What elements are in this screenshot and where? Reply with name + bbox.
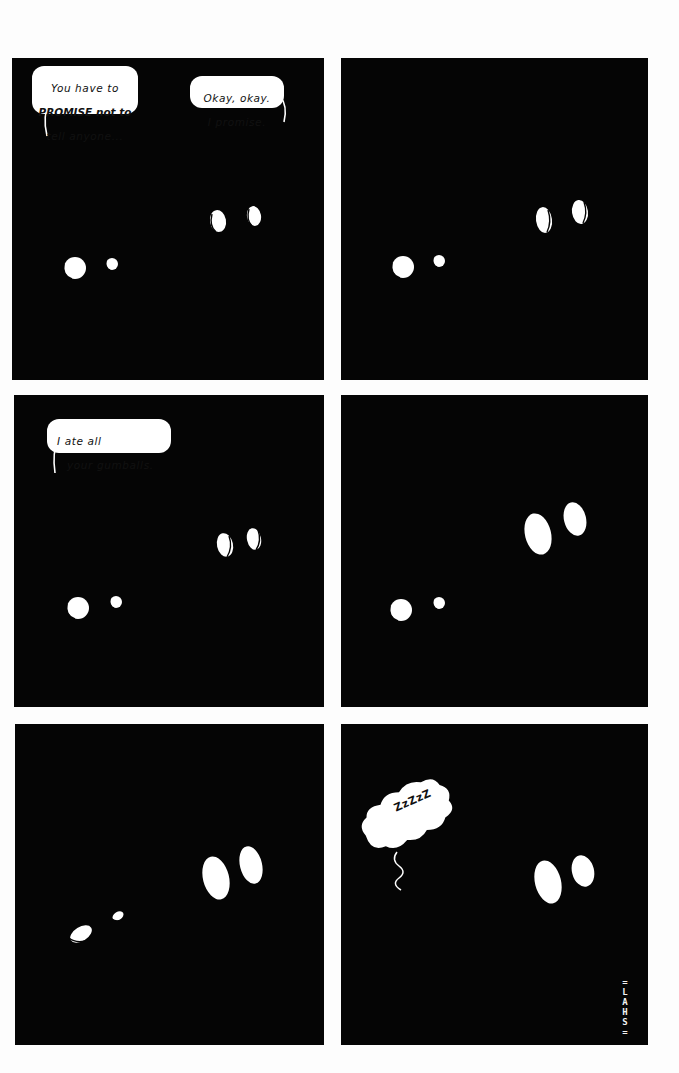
panel-6-artwork bbox=[341, 724, 648, 1045]
signature-char: L bbox=[618, 987, 632, 997]
comic-panel-2 bbox=[341, 58, 648, 380]
right-character-eyes-wide bbox=[520, 500, 589, 558]
bubble-line: I promise. bbox=[196, 116, 278, 128]
signature-char: H bbox=[618, 1007, 632, 1017]
left-character-eyes bbox=[390, 597, 445, 621]
bubble-line: PROMISE not to bbox=[38, 106, 132, 118]
right-character-eyes-wide bbox=[198, 844, 266, 903]
speech-bubble-left: I ate all your gumballs. bbox=[47, 419, 171, 453]
bubble-line: Okay, okay. bbox=[196, 92, 278, 104]
left-character-eyes-closing bbox=[67, 909, 125, 946]
thought-tail bbox=[394, 852, 403, 890]
comic-panel-4 bbox=[341, 395, 648, 707]
left-character-eyes bbox=[392, 255, 445, 278]
comic-panel-1: You have to PROMISE not to tell anyone..… bbox=[12, 58, 324, 380]
speech-bubble-left: You have to PROMISE not to tell anyone..… bbox=[32, 66, 138, 114]
comic-panel-5 bbox=[15, 724, 324, 1045]
signature-char: = bbox=[618, 977, 632, 987]
right-character-eyes bbox=[215, 527, 263, 559]
signature-char: S bbox=[618, 1017, 632, 1027]
bubble-line: tell anyone... bbox=[38, 130, 132, 142]
left-character-eyes bbox=[64, 257, 118, 279]
panel-4-artwork bbox=[341, 395, 648, 707]
panel-5-artwork bbox=[15, 724, 324, 1045]
comic-panel-6: ZzZzZ = L A H S = bbox=[341, 724, 648, 1045]
artist-signature: = L A H S = bbox=[618, 977, 632, 1037]
bubble-line: your gumballs. bbox=[57, 459, 165, 471]
left-character-eyes bbox=[67, 596, 122, 619]
speech-bubble-right: Okay, okay. I promise. bbox=[190, 76, 284, 108]
right-character-eyes bbox=[534, 199, 589, 234]
comic-panel-3: I ate all your gumballs. bbox=[14, 395, 324, 707]
bubble-line: You have to bbox=[38, 82, 132, 94]
signature-char: = bbox=[618, 1027, 632, 1037]
right-character-eyes-wide bbox=[530, 853, 597, 907]
signature-char: A bbox=[618, 997, 632, 1007]
bubble-line: I ate all bbox=[57, 435, 165, 447]
panel-2-artwork bbox=[341, 58, 648, 380]
thought-cloud bbox=[353, 770, 461, 858]
right-character-eyes bbox=[208, 205, 262, 233]
